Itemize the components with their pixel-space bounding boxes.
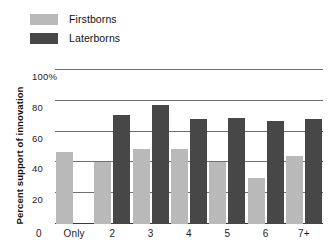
bar-group-5	[208, 70, 246, 224]
bar-group-3	[132, 70, 170, 224]
chart-legend: Firstborns Laterborns	[30, 12, 190, 50]
bar-group-7plus	[285, 70, 323, 224]
legend-label-firstborns: Firstborns	[69, 14, 117, 25]
legend-swatch-firstborns	[30, 14, 58, 25]
legend-item-firstborns: Firstborns	[30, 12, 190, 27]
bar-firstborn-2	[94, 162, 111, 224]
y-tick-label-40: 40	[32, 163, 56, 174]
x-tick-label-4: 4	[170, 228, 208, 239]
y-tick-label-80: 80	[32, 102, 56, 113]
legend-swatch-laterborns	[30, 33, 58, 44]
bar-laterborn-2	[113, 115, 130, 224]
y-axis-title: Percent support of innovation	[14, 81, 25, 231]
bar-laterborn-5	[228, 118, 245, 224]
bar-laterborn-7plus	[305, 119, 322, 224]
y-tick-label-60: 60	[32, 133, 56, 144]
bar-laterborn-4	[190, 119, 207, 224]
y-tick-label-20: 20	[32, 194, 56, 205]
bar-groups	[55, 70, 323, 224]
x-tick-label-7plus: 7+	[285, 228, 323, 239]
y-tick-label-100: 100%	[32, 71, 56, 82]
x-tick-label-3: 3	[132, 228, 170, 239]
bar-group-4	[170, 70, 208, 224]
x-tick-label-6: 6	[246, 228, 284, 239]
bar-firstborn-4	[171, 149, 188, 224]
legend-label-laterborns: Laterborns	[69, 33, 120, 44]
bar-chart-figure: Firstborns Laterborns Percent support of…	[0, 0, 329, 245]
x-tick-labels: Only234567+	[55, 228, 323, 239]
x-tick-label-2: 2	[93, 228, 131, 239]
bar-firstborn-5	[209, 162, 226, 224]
bar-firstborn-7plus	[286, 156, 303, 224]
x-origin-label: 0	[36, 228, 42, 239]
bar-group-only	[55, 70, 93, 224]
plot-area: 20406080100%	[55, 70, 323, 224]
bar-firstborn-3	[133, 149, 150, 224]
bar-laterborn-3	[152, 105, 169, 224]
bar-laterborn-6	[267, 121, 284, 224]
x-tick-label-5: 5	[208, 228, 246, 239]
bar-group-6	[246, 70, 284, 224]
legend-item-laterborns: Laterborns	[30, 31, 190, 46]
bar-group-2	[93, 70, 131, 224]
bar-firstborn-6	[248, 178, 265, 224]
bar-firstborn-only	[56, 152, 73, 224]
x-tick-label-only: Only	[55, 228, 93, 239]
